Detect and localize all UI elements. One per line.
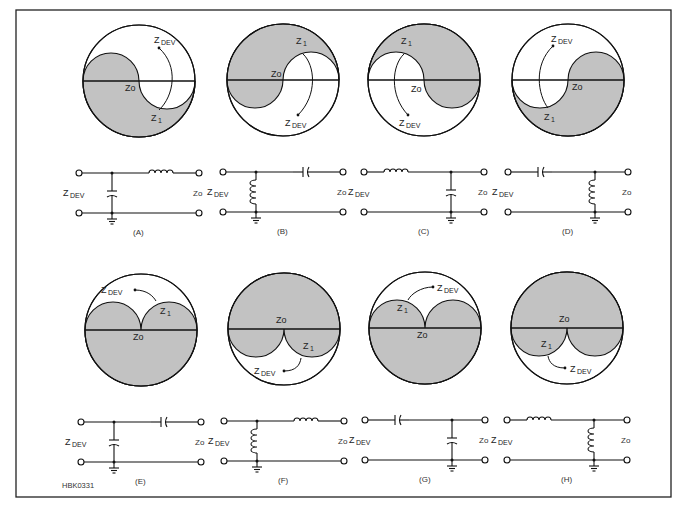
panel-c: ZDEVZ1ZoZDEVZo(C) xyxy=(348,24,488,236)
series-inductor-icon xyxy=(527,417,551,420)
shunt-inductor-icon xyxy=(250,180,256,204)
output-terminal-bottom xyxy=(624,457,630,463)
figure-id-label: HBK0331 xyxy=(62,481,94,490)
output-terminal-bottom xyxy=(625,209,631,215)
panel-g: ZDEVZ1ZoZDEVZo(G) xyxy=(349,272,489,484)
output-terminal-bottom xyxy=(481,209,487,215)
panel-h: ZDEVZ1ZoZDEVZo(H) xyxy=(491,272,631,484)
output-terminal-bottom xyxy=(341,458,347,464)
network-zdev-label: ZDEV xyxy=(492,187,514,198)
input-terminal-top xyxy=(78,419,84,425)
panel-d: ZDEVZ1ZoZDEVZo(D) xyxy=(492,24,632,236)
network-zdev-label: ZDEV xyxy=(491,435,513,446)
zo-label: Zo xyxy=(276,315,287,325)
panel-e: ZDEVZ1ZoZDEVZo(E) xyxy=(65,274,205,486)
panel-caption: (F) xyxy=(278,476,289,485)
network-zdev-label: ZDEV xyxy=(208,436,230,447)
output-terminal-bottom xyxy=(196,210,202,216)
input-terminal-bottom xyxy=(78,459,84,465)
matching-network: ZDEVZo xyxy=(349,415,489,471)
network-zdev-label: ZDEV xyxy=(63,188,85,199)
matching-network: ZDEVZo xyxy=(492,167,632,223)
panel-caption: (B) xyxy=(277,227,288,236)
input-terminal-bottom xyxy=(505,209,511,215)
input-terminal-top xyxy=(504,417,510,423)
input-terminal-top xyxy=(361,169,367,175)
zo-label: Zo xyxy=(133,332,144,342)
network-zo-label: Zo xyxy=(622,188,632,197)
matching-network: ZDEVZo xyxy=(65,417,205,473)
network-zdev-label: ZDEV xyxy=(207,187,229,198)
output-terminal-bottom xyxy=(198,459,204,465)
panel-b: ZDEVZ1ZoZDEVZo(B) xyxy=(207,24,347,236)
output-terminal-top xyxy=(625,169,631,175)
panel-caption: (H) xyxy=(561,475,572,484)
panel-caption: (G) xyxy=(419,475,431,484)
input-terminal-bottom xyxy=(221,458,227,464)
network-zo-label: Zo xyxy=(479,436,489,445)
panel-caption: (D) xyxy=(562,227,573,236)
series-inductor-icon xyxy=(149,170,173,173)
input-terminal-bottom xyxy=(361,209,367,215)
series-inductor-icon xyxy=(384,169,408,172)
panel-caption: (C) xyxy=(418,227,429,236)
output-terminal-top xyxy=(482,417,488,423)
network-zdev-label: ZDEV xyxy=(348,187,370,198)
network-zo-label: Zo xyxy=(195,438,205,447)
panel-a: ZDEVZ1ZoZDEVZo(A) xyxy=(63,25,203,237)
panel-caption: (A) xyxy=(133,228,144,237)
network-zo-label: Zo xyxy=(478,188,488,197)
input-terminal-top xyxy=(362,417,368,423)
output-terminal-top xyxy=(341,418,347,424)
network-zdev-label: ZDEV xyxy=(65,437,87,448)
input-terminal-bottom xyxy=(76,210,82,216)
shunt-inductor-icon xyxy=(588,428,594,452)
input-terminal-top xyxy=(220,169,226,175)
output-terminal-top xyxy=(624,417,630,423)
output-terminal-bottom xyxy=(482,457,488,463)
panel-f: ZDEVZ1ZoZDEVZo(F) xyxy=(208,273,348,485)
zo-label: Zo xyxy=(417,330,428,340)
panels-group: ZDEVZ1ZoZDEVZo(A)ZDEVZ1ZoZDEVZo(B)ZDEVZ1… xyxy=(63,24,632,486)
input-terminal-bottom xyxy=(362,457,368,463)
output-terminal-top xyxy=(340,169,346,175)
matching-network: ZDEVZo xyxy=(348,169,488,223)
input-terminal-top xyxy=(76,170,82,176)
matching-network: ZDEVZo xyxy=(491,417,631,471)
input-terminal-top xyxy=(505,169,511,175)
zo-label: Zo xyxy=(271,69,282,79)
matching-network: ZDEVZo xyxy=(207,167,347,223)
input-terminal-bottom xyxy=(504,457,510,463)
output-terminal-bottom xyxy=(340,209,346,215)
network-zo-label: Zo xyxy=(621,436,631,445)
output-terminal-top xyxy=(198,419,204,425)
input-terminal-top xyxy=(221,418,227,424)
network-zo-label: Zo xyxy=(193,189,203,198)
matching-network: ZDEVZo xyxy=(208,418,348,472)
network-zo-label: Zo xyxy=(338,437,348,446)
shunt-inductor-icon xyxy=(589,180,595,204)
output-terminal-top xyxy=(481,169,487,175)
zo-label: Zo xyxy=(411,84,422,94)
zo-label: Zo xyxy=(559,314,570,324)
zo-label: Zo xyxy=(125,83,136,93)
matching-network: ZDEVZo xyxy=(63,170,203,224)
network-zdev-label: ZDEV xyxy=(349,435,371,446)
impedance-matching-figure: ZDEVZ1ZoZDEVZo(A)ZDEVZ1ZoZDEVZo(B)ZDEVZ1… xyxy=(0,0,683,510)
network-zo-label: Zo xyxy=(337,188,347,197)
shunt-inductor-icon xyxy=(251,429,257,453)
series-inductor-icon xyxy=(294,418,318,421)
zo-label: Zo xyxy=(572,82,583,92)
output-terminal-top xyxy=(196,170,202,176)
input-terminal-bottom xyxy=(220,209,226,215)
panel-caption: (E) xyxy=(135,477,146,486)
